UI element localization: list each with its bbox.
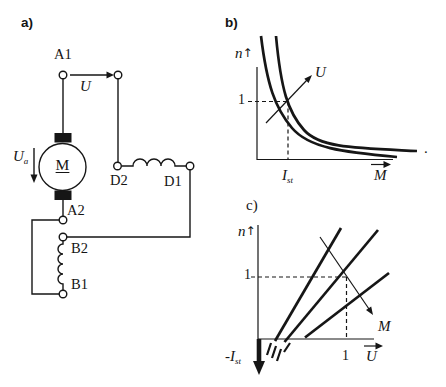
terminal-label-b2: B2 xyxy=(71,241,88,256)
hatch-3 xyxy=(277,349,281,361)
terminal-label-b1: B1 xyxy=(71,277,88,292)
hatch-1 xyxy=(267,343,271,355)
terminal-node-b2 xyxy=(59,233,67,241)
chart-c-m-arrow xyxy=(320,237,373,315)
figure-canvas: a) A1 U Ua M D2 D1 A2 B2 B1 b) n↑ 1 U Is… xyxy=(0,0,446,387)
chart-b-guides xyxy=(248,102,288,160)
chart-c-y-tick: 1 xyxy=(244,268,251,282)
chart-c-y-axis-label: n↑ xyxy=(238,224,256,239)
supply-voltage-arrow xyxy=(70,72,114,79)
chart-b xyxy=(248,36,417,168)
terminal-label-a1: A1 xyxy=(54,47,72,62)
panel-c-label: c) xyxy=(246,198,258,213)
chart-b-u-arrow xyxy=(266,75,312,123)
arrow-head xyxy=(253,361,265,375)
hatch-4 xyxy=(284,343,290,352)
terminal-node-supply-right xyxy=(114,71,122,79)
dashed-line-extensions xyxy=(267,343,290,361)
chart-b-m-symbol: M xyxy=(374,167,387,183)
coil-vertical xyxy=(58,241,63,290)
terminal-label-d2: D2 xyxy=(110,173,128,188)
armature-voltage-arrow xyxy=(31,148,38,183)
chart-b-y-tick: 1 xyxy=(238,93,245,107)
terminal-label-d1: D1 xyxy=(164,174,182,189)
armature-voltage-symbol: U xyxy=(13,148,24,164)
neg-current-thick-arrow xyxy=(253,339,265,375)
supply-voltage-symbol: U xyxy=(80,78,91,94)
arrow-head xyxy=(31,175,38,184)
chart-b-x-axis-label: M xyxy=(374,168,387,183)
armature-voltage-label: Ua xyxy=(13,149,28,164)
panel-b-label: b) xyxy=(225,16,238,30)
chart-c-axes xyxy=(258,225,374,339)
curve-lower-u xyxy=(261,36,397,157)
chart-b-curves xyxy=(261,36,417,157)
armature-voltage-subscript: a xyxy=(24,156,29,166)
trailing-period: . xyxy=(424,141,428,156)
motor-label: M xyxy=(53,157,72,173)
hatch-2 xyxy=(272,346,276,358)
neg-current-symbol: -I xyxy=(225,348,235,364)
up-arrow-icon: ↑ xyxy=(243,46,253,60)
coil-horizontal xyxy=(122,159,187,166)
panel-a-label: a) xyxy=(21,16,33,30)
terminal-node-a2 xyxy=(59,216,67,224)
terminal-node-d2 xyxy=(114,162,122,170)
chart-c-u-symbol: U xyxy=(366,348,377,364)
chart-b-u-symbol: U xyxy=(315,64,326,80)
chart-c-x-tick: 1 xyxy=(342,349,349,363)
chart-c-neg-current-label: -Ist xyxy=(225,349,241,364)
wire-a2-to-b1-bracket xyxy=(32,220,59,294)
chart-b-y-axis-label: n↑ xyxy=(235,46,253,61)
chart-b-u-arrow-label: U xyxy=(315,65,326,80)
terminal-label-a2: A2 xyxy=(67,203,85,218)
arrow-head xyxy=(366,307,373,315)
arrow-head xyxy=(107,72,115,79)
terminal-node-d1 xyxy=(186,162,194,170)
field-winding-d xyxy=(122,159,187,166)
terminal-node-b1 xyxy=(59,290,67,298)
brush-top xyxy=(55,133,72,143)
chart-c-m-symbol: M xyxy=(378,318,391,334)
terminal-node-a1 xyxy=(59,71,67,79)
chart-b-y-symbol: n xyxy=(235,45,243,61)
supply-voltage-label: U xyxy=(80,79,91,94)
starting-current-subscript: st xyxy=(287,175,293,185)
chart-c-x-axis-label: U xyxy=(366,349,377,364)
brush-bottom xyxy=(55,191,72,201)
chart-c-n-symbol: n xyxy=(238,223,246,239)
chart-c-lines xyxy=(275,228,389,342)
chart-b-x-tick: Ist xyxy=(282,168,293,183)
chart-c-m-arrow-label: M xyxy=(378,319,391,334)
winding-b xyxy=(58,241,63,290)
neg-current-subscript: st xyxy=(235,356,241,366)
up-arrow-icon: ↑ xyxy=(246,224,256,238)
